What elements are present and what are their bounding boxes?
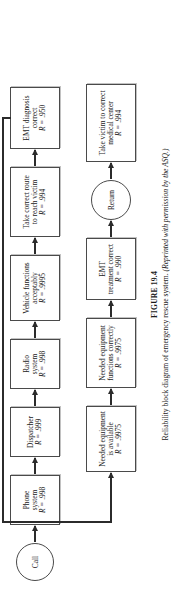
node-needed-equipment-available: Needed equipment is available R = .9975 xyxy=(86,406,136,472)
arrow-return-to-medical-center xyxy=(110,163,112,179)
arrow-equipment-available-to-functions xyxy=(110,389,112,405)
node-needed-equipment-available-reliability: R = .9975 xyxy=(115,424,123,454)
node-take-correct-route-reliability: R = .994 xyxy=(39,189,47,215)
figure-caption-text: Reliability block diagram of emergency r… xyxy=(161,273,170,440)
node-radio-system: Radio system R = .998 xyxy=(10,339,60,389)
node-needed-equipment-functions-reliability: R = .9975 xyxy=(115,338,123,368)
node-emt-treatment-correct: EMT treatment correct R = .990 xyxy=(86,238,136,300)
feedback-line-left-drop xyxy=(2,522,111,524)
figure-caption-credit: (Reprinted with permission by the ASQ.) xyxy=(161,148,170,271)
arrow-emt-treatment-to-return xyxy=(110,221,112,237)
figure-root: Call Phone system R = .998 Dispatcher R … xyxy=(0,0,185,589)
node-dispatcher: Dispatcher R = .999 xyxy=(10,407,60,457)
arrow-call-to-phone xyxy=(34,526,36,542)
arrow-radio-to-vehicle xyxy=(34,322,36,338)
node-call: Call xyxy=(16,543,54,581)
node-take-victim-medical-center-reliability: R = .994 xyxy=(115,110,123,136)
feedback-line-top xyxy=(2,117,4,523)
node-emt-diagnosis-correct-reliability: R = .950 xyxy=(39,105,47,131)
node-phone-system-reliability: R = .998 xyxy=(39,487,47,513)
node-return: Return xyxy=(91,180,131,220)
node-emt-treatment-correct-reliability: R = .990 xyxy=(115,256,123,282)
arrow-vehicle-to-route xyxy=(34,238,36,254)
node-dispatcher-reliability: R = .999 xyxy=(35,419,43,445)
node-call-label: Call xyxy=(31,556,40,568)
arrow-phone-to-dispatcher xyxy=(34,458,36,474)
node-needed-equipment-functions: Needed equipment functions correctly R =… xyxy=(86,318,136,388)
reliability-block-diagram: Call Phone system R = .998 Dispatcher R … xyxy=(0,0,147,589)
arrow-dispatcher-to-radio xyxy=(34,390,36,406)
arrow-equipment-functions-to-emt-treatment xyxy=(110,301,112,317)
arrow-route-to-emt-diagnosis xyxy=(34,150,36,166)
feedback-line-bottom xyxy=(110,488,112,523)
node-vehicle-functions: Vehicle functions acceptably R = .9995 xyxy=(10,255,60,321)
arrow-feedback-to-needed-equipment-available xyxy=(110,473,112,489)
node-return-label: Return xyxy=(107,190,116,210)
node-emt-diagnosis-correct: EMT diagnosis correct R = .950 xyxy=(10,87,60,149)
node-take-correct-route: Take correct route to reach victim R = .… xyxy=(10,167,60,237)
node-phone-system: Phone system R = .998 xyxy=(10,475,60,525)
node-radio-system-reliability: R = .998 xyxy=(39,351,47,377)
figure-caption-label: FIGURE 19.4 xyxy=(150,0,160,589)
node-vehicle-functions-reliability: R = .9995 xyxy=(39,273,47,303)
node-take-victim-medical-center: Take victim to correct medical center R … xyxy=(86,84,136,162)
figure-caption: FIGURE 19.4 Reliability block diagram of… xyxy=(150,0,172,589)
